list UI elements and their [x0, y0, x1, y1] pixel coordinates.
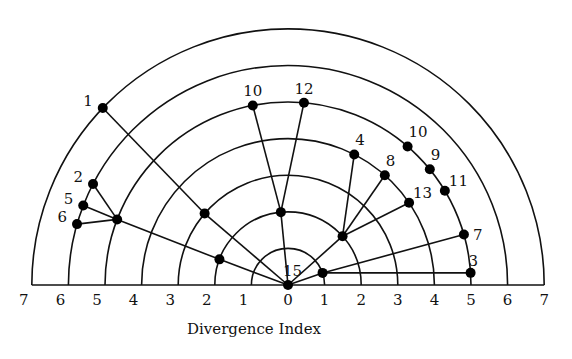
node-label-n4: 4 — [355, 131, 365, 149]
node-n8 — [380, 170, 390, 180]
node-n5 — [78, 201, 88, 211]
node-label-n5: 5 — [64, 190, 74, 208]
tick-left-4: 4 — [129, 291, 139, 309]
node-label-n10a: 10 — [243, 82, 262, 100]
node-n9 — [425, 164, 435, 174]
node-n4 — [349, 149, 359, 159]
tick-right-3: 3 — [393, 291, 403, 309]
tick-left-3: 3 — [165, 291, 175, 309]
node-label-n8: 8 — [386, 152, 396, 170]
node-n10a — [248, 100, 258, 110]
edge-hD-n10a — [253, 105, 281, 212]
tick-center: 0 — [283, 291, 293, 309]
node-n6 — [72, 219, 82, 229]
axis-title: Divergence Index — [187, 320, 322, 338]
node-label-n9: 9 — [431, 146, 441, 164]
edge-root-hC — [219, 259, 288, 285]
tick-right-2: 2 — [356, 291, 366, 309]
edge-hD-n12 — [281, 103, 304, 212]
tick-right-6: 6 — [503, 291, 513, 309]
node-label-n3: 3 — [469, 252, 479, 270]
node-root — [283, 280, 293, 290]
node-labels: 151256101248131091173 — [57, 80, 482, 280]
edge-hC-hB — [117, 219, 219, 259]
node-label-n1: 1 — [83, 92, 93, 110]
node-n10b — [403, 141, 413, 151]
tick-left-5: 5 — [92, 291, 102, 309]
tick-right-7: 7 — [539, 291, 549, 309]
node-label-n13: 13 — [413, 184, 432, 202]
node-n2 — [88, 179, 98, 189]
axis-ticks: 765432101234567 — [19, 291, 549, 309]
node-hE — [338, 231, 348, 241]
node-label-n2: 2 — [73, 168, 83, 186]
node-n7 — [459, 230, 469, 240]
node-label-n11: 11 — [449, 172, 468, 190]
node-label-n10b: 10 — [409, 123, 428, 141]
edge-hE-n8 — [343, 175, 385, 236]
node-label-n6: 6 — [57, 208, 67, 226]
radial-divergence-diagram: 151256101248131091173 765432101234567 Di… — [0, 0, 572, 359]
node-hD — [276, 207, 286, 217]
node-hB — [112, 214, 122, 224]
node-hF — [318, 268, 328, 278]
node-hA — [200, 209, 210, 219]
node-label-n12: 12 — [294, 80, 313, 98]
tick-right-4: 4 — [430, 291, 440, 309]
node-n1 — [98, 103, 108, 113]
node-hC — [214, 254, 224, 264]
node-label-n7: 7 — [473, 226, 483, 244]
edge-hB-n6 — [77, 219, 117, 224]
tick-left-7: 7 — [19, 291, 29, 309]
node-label-root: 15 — [283, 262, 302, 280]
node-n12 — [299, 98, 309, 108]
tick-left-2: 2 — [202, 291, 212, 309]
edge-hA-n1 — [103, 108, 205, 214]
concentric-rings — [32, 29, 544, 285]
tick-left-1: 1 — [239, 291, 249, 309]
edge-hE-n13 — [343, 203, 410, 236]
tick-right-5: 5 — [466, 291, 476, 309]
tick-right-1: 1 — [320, 291, 330, 309]
tick-left-6: 6 — [56, 291, 66, 309]
